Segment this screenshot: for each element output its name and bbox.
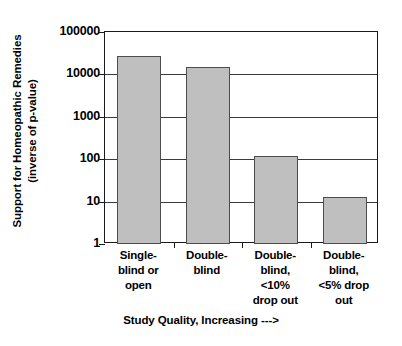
x-axis-category-label-line: open <box>97 278 180 293</box>
x-axis-category-label-line: <5% drop <box>303 278 386 293</box>
chart-figure: Support for Homeopathic Remedies (invers… <box>0 0 402 346</box>
y-axis-tick-mark <box>99 32 105 33</box>
bar <box>254 156 298 244</box>
y-axis-tick-label: 1 <box>42 237 100 249</box>
bar <box>117 56 161 244</box>
y-axis-tick-label: 10000 <box>42 67 100 79</box>
bar <box>186 67 230 244</box>
y-axis-tick-mark <box>99 74 105 75</box>
y-axis-tick-label: 100000 <box>42 25 100 37</box>
bar <box>323 197 367 244</box>
y-axis-title-line1: Support for Homeopathic Remedies <box>10 35 25 228</box>
y-axis-tick-label: 100 <box>42 152 100 164</box>
y-axis-tick-label: 10 <box>42 195 100 207</box>
y-axis-title-line2: (inverse of p-value) <box>24 35 39 228</box>
x-axis-category-label-line: Double- <box>303 248 386 263</box>
y-axis-tick-mark <box>99 159 105 160</box>
x-axis-category-label-line: blind, <box>303 263 386 278</box>
y-axis-tick-label: 1000 <box>42 110 100 122</box>
x-axis-category-label: Double-blind,<5% dropout <box>303 248 386 308</box>
y-axis-tick-labels: 100000100001000100101 <box>40 0 100 346</box>
plot-area <box>104 31 378 243</box>
x-axis-title: Study Quality, Increasing ---> <box>0 314 402 326</box>
x-axis-category-labels: Single-blind oropenDouble-blindDouble-bl… <box>104 248 378 310</box>
y-axis-tick-mark <box>99 117 105 118</box>
y-axis-tick-mark <box>99 244 105 245</box>
x-axis-category-label-line: out <box>303 293 386 308</box>
y-axis-tick-mark <box>99 202 105 203</box>
